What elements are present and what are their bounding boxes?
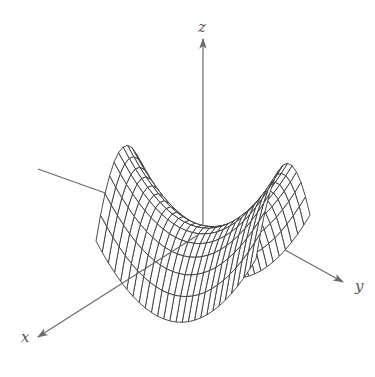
y-axis-label: y	[355, 279, 363, 294]
surface-plot	[0, 0, 375, 377]
x-axis-label: x	[21, 330, 29, 345]
y-axis-line	[285, 250, 343, 282]
saddle-surface-figure: z y x	[0, 0, 375, 377]
z-axis-label: z	[198, 20, 206, 35]
